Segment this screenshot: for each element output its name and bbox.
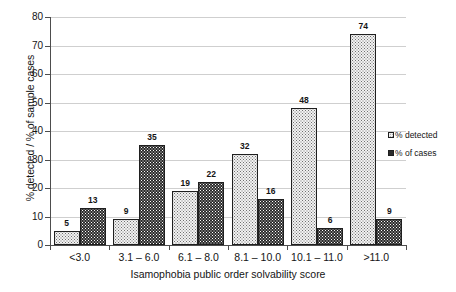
bar-value-label: 74 (350, 22, 376, 31)
y-axis-tick-labels: 01020304050607080 (0, 0, 43, 292)
y-tick-label: 0 (3, 240, 43, 250)
bar-value-label: 9 (113, 207, 139, 216)
y-tick-mark (45, 188, 50, 189)
x-tick-mark (109, 245, 110, 250)
legend-item: % of cases (388, 146, 438, 159)
bar-chart: % detected / % of sample cases 010203040… (0, 0, 456, 292)
y-tick-mark (45, 46, 50, 47)
y-tick-label: 60 (3, 69, 43, 79)
y-tick-label: 40 (3, 126, 43, 136)
gridline (50, 17, 406, 18)
y-tick-label: 20 (3, 183, 43, 193)
bar-detected (232, 154, 258, 245)
legend-item: % detected (388, 128, 438, 141)
bar-value-label: 32 (232, 142, 258, 151)
y-tick-mark (45, 74, 50, 75)
bar-value-label: 19 (172, 179, 198, 188)
legend-swatch-icon (388, 132, 394, 138)
bar-detected (54, 231, 80, 245)
y-tick-label: 80 (3, 12, 43, 22)
x-tick-label: 8.1 – 10.0 (228, 251, 287, 263)
bar-value-label: 35 (139, 133, 165, 142)
x-tick-label: 3.1 – 6.0 (109, 251, 168, 263)
legend-label: % detected (395, 130, 438, 140)
bar-value-label: 5 (54, 219, 80, 228)
x-tick-label: >11.0 (347, 251, 406, 263)
y-tick-label: 10 (3, 212, 43, 222)
bar-cases (376, 219, 402, 245)
y-axis-line (50, 17, 51, 246)
y-tick-label: 70 (3, 41, 43, 51)
x-tick-mark (287, 245, 288, 250)
plot-area: 51393519223216486749 (50, 17, 406, 245)
bar-cases (80, 208, 106, 245)
y-tick-label: 50 (3, 98, 43, 108)
x-tick-label: 10.1 – 11.0 (287, 251, 346, 263)
x-tick-mark (50, 245, 51, 250)
x-tick-mark (347, 245, 348, 250)
y-tick-mark (45, 217, 50, 218)
bar-detected (172, 191, 198, 245)
bar-detected (350, 34, 376, 245)
bar-cases (258, 199, 284, 245)
bar-value-label: 13 (80, 196, 106, 205)
x-tick-mark (169, 245, 170, 250)
y-tick-label: 30 (3, 155, 43, 165)
bar-cases (198, 182, 224, 245)
legend-swatch-icon (388, 150, 394, 156)
y-tick-mark (45, 17, 50, 18)
legend: % detected% of cases (388, 128, 438, 164)
bar-value-label: 6 (317, 216, 343, 225)
y-tick-mark (45, 103, 50, 104)
y-tick-mark (45, 160, 50, 161)
bar-value-label: 22 (198, 170, 224, 179)
x-tick-label: 6.1 – 8.0 (169, 251, 228, 263)
legend-label: % of cases (395, 148, 437, 158)
bar-value-label: 48 (291, 96, 317, 105)
bar-detected (291, 108, 317, 245)
bar-value-label: 9 (376, 207, 402, 216)
bar-cases (139, 145, 165, 245)
x-tick-mark (228, 245, 229, 250)
x-tick-mark (406, 245, 407, 250)
x-axis-title: Isamophobia public order solvability sco… (50, 268, 406, 280)
y-tick-mark (45, 131, 50, 132)
bar-cases (317, 228, 343, 245)
x-tick-label: <3.0 (50, 251, 109, 263)
bar-detected (113, 219, 139, 245)
bar-value-label: 16 (258, 187, 284, 196)
